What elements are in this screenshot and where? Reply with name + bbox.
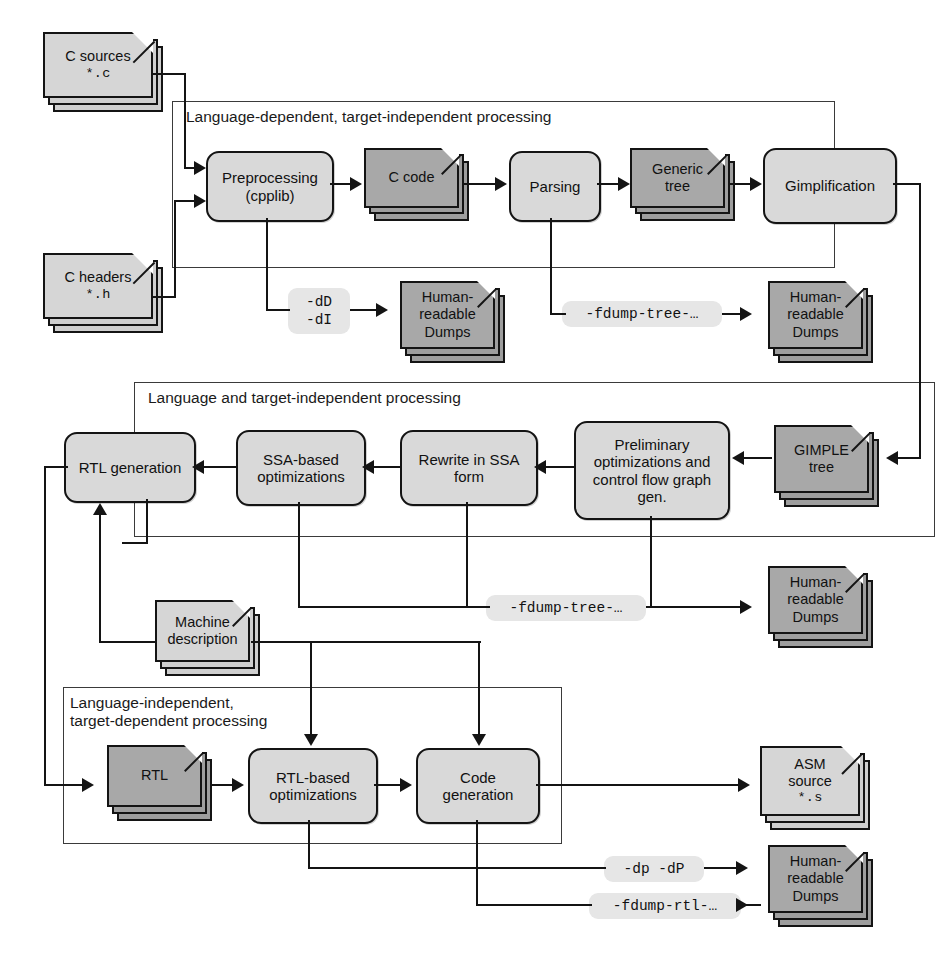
doc-c-sources-line2: *.c (85, 66, 110, 82)
doc-asm-source-line2: source (788, 773, 832, 790)
edge-csources-h1 (152, 73, 186, 75)
flag-dp-dP-text: -dp -dP (624, 860, 685, 878)
doc-dumps-preproc-line2: readable (419, 306, 475, 323)
arrow-dD-to-dumps (376, 303, 388, 317)
doc-dumps-parsing-line1: Human- (790, 289, 842, 306)
process-code-generation-line1: Code (456, 769, 500, 786)
doc-dumps-rtl-line2: readable (787, 870, 843, 887)
doc-gimple-tree-line1: GIMPLE (794, 442, 849, 459)
flag-dD-dI-text: -dD -dI (306, 293, 332, 329)
edge-machdesc-right-h (251, 641, 481, 643)
arrow-codegen-to-asm (738, 778, 750, 792)
doc-c-headers-line2: *.h (85, 287, 110, 303)
process-preliminary-optimizations-line2: optimizations and (590, 453, 715, 470)
edge-rtlopt-dump-v (308, 820, 310, 869)
arrow-prelim-to-rewrite (534, 460, 546, 474)
doc-asm-source-line1: ASM (794, 756, 825, 773)
process-code-generation: Code generation (416, 748, 540, 824)
arrow-fdumprtl-to-dumps (736, 898, 748, 912)
process-rtl-based-optimizations-line2: optimizations (265, 786, 361, 803)
arrow-ssaopt-to-rtlgen (192, 460, 204, 474)
process-ssa-optimizations-line1: SSA-based (259, 451, 343, 468)
edge-rewrite-dump-v (466, 502, 468, 608)
flag-dp-dP: -dp -dP (604, 856, 704, 882)
arrow-rtlopt-to-codegen (400, 778, 412, 792)
edge-codegen-to-asm (536, 784, 741, 786)
edge-csources-v (184, 73, 186, 169)
edge-preproc-dump-v (266, 218, 268, 311)
doc-asm-source: ASM source *.s (760, 746, 875, 836)
process-rtl-generation: RTL generation (64, 432, 196, 503)
edge-parsing-dump-h (550, 313, 566, 315)
flag-fdump-tree-mid-text: -fdump-tree-… (509, 599, 622, 617)
group-label-language-target-independent: Language and target-independent processi… (148, 389, 461, 407)
edge-ssaopt-dump-v (298, 502, 300, 608)
doc-c-headers: C headers *.h (43, 253, 168, 336)
edge-ssaopt-to-rtlgen (204, 466, 236, 468)
doc-machine-description: Machine description (155, 600, 265, 682)
doc-rtl-label: RTL (141, 767, 168, 784)
edge-machdesc-up-v (99, 515, 101, 643)
process-rewrite-in-ssa-line2: form (450, 468, 488, 485)
edge-machdesc-up-h (99, 641, 157, 643)
doc-dumps-rtl-line3: Dumps (793, 888, 839, 905)
edge-ssaopt-dump-h (298, 606, 490, 608)
edge-codegen-dump-v (476, 820, 478, 906)
group-label-target-dependent: Language-independent, target-dependent p… (70, 694, 267, 731)
group-label-language-dependent: Language-dependent, target-independent p… (186, 108, 551, 126)
process-rewrite-in-ssa-line1: Rewrite in SSA (415, 451, 524, 468)
process-rtl-generation-label: RTL generation (75, 459, 186, 476)
doc-dumps-rtl: Human- readable Dumps (768, 845, 878, 931)
flag-fdump-tree-top-text: -fdump-tree-… (585, 305, 698, 323)
doc-rtl: RTL (107, 745, 217, 827)
doc-dumps-preproc-line3: Dumps (425, 324, 471, 341)
doc-generic-tree-line1: Generic (652, 161, 703, 178)
doc-dumps-tree-mid-line2: readable (787, 591, 843, 608)
doc-dumps-parsing: Human- readable Dumps (768, 281, 878, 367)
doc-asm-source-line3: *.s (797, 790, 822, 806)
arrow-bus-to-dumps-mid (740, 600, 752, 614)
process-rtl-based-optimizations: RTL-based optimizations (248, 748, 378, 824)
arrow-into-gimple-tree (886, 451, 898, 465)
process-preliminary-optimizations-line1: Preliminary (610, 436, 693, 453)
doc-dumps-preproc-line1: Human- (422, 289, 474, 306)
process-preprocessing-line1: Preprocessing (218, 169, 322, 186)
edge-prelim-dump-v (650, 516, 652, 608)
arrow-ccode-to-parsing (495, 177, 507, 191)
edge-machdesc-to-rtlopt-v (310, 641, 312, 735)
arrow-rtl-to-rtlopt (232, 778, 244, 792)
doc-dumps-tree-mid: Human- readable Dumps (768, 566, 878, 652)
edge-rewrite-to-ssaopt (374, 466, 400, 468)
doc-dumps-preproc: Human- readable Dumps (400, 281, 510, 367)
doc-gimple-tree-line2: tree (809, 459, 834, 476)
arrow-fdumptree-to-dumps (740, 307, 752, 321)
arrow-machdesc-to-rtlgen (93, 503, 107, 515)
doc-machine-description-line1: Machine (175, 614, 230, 631)
flag-fdump-rtl: -fdump-rtl-… (589, 893, 741, 919)
doc-dumps-tree-mid-line3: Dumps (793, 609, 839, 626)
arrow-rewrite-to-ssaopt (362, 460, 374, 474)
edge-bus-to-dumps-mid (646, 606, 746, 608)
edge-gimplification-out-h (893, 183, 921, 185)
doc-c-sources: C sources *.c (43, 32, 168, 115)
doc-c-code: C code (364, 148, 474, 224)
arrow-dpdP-to-dumps (736, 861, 748, 875)
process-preliminary-optimizations: Preliminary optimizations and control fl… (574, 421, 730, 520)
edge-prelim-to-rewrite (546, 466, 574, 468)
arrow-preproc-to-ccode (350, 177, 362, 191)
doc-dumps-rtl-line1: Human- (790, 853, 842, 870)
process-code-generation-line2: generation (439, 786, 518, 803)
edge-gimplification-out-v (919, 183, 921, 459)
arrow-machdesc-to-codegen (472, 734, 486, 746)
edge-machdesc-to-codegen-v (478, 641, 480, 735)
flag-fdump-rtl-text: -fdump-rtl-… (613, 897, 717, 915)
arrow-generic-to-gimplification (750, 177, 762, 191)
doc-dumps-parsing-line3: Dumps (793, 324, 839, 341)
edge-cheaders-h1 (152, 296, 176, 298)
doc-dumps-parsing-line2: readable (787, 306, 843, 323)
process-ssa-optimizations: SSA-based optimizations (236, 430, 366, 506)
gcc-pipeline-diagram: Language-dependent, target-independent p… (0, 0, 943, 965)
process-parsing-label: Parsing (526, 178, 585, 195)
process-preprocessing-line2: (cpplib) (241, 187, 298, 204)
arrow-cheaders-to-preprocessing (194, 194, 206, 208)
